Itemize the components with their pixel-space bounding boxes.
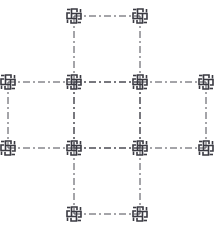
cell-edge-group: [8, 16, 206, 214]
fractal-cross-figure: [0, 0, 214, 228]
figure-canvas: Recursive cross (quincunx) tile pattern …: [0, 0, 214, 228]
pinwheel-motif-group: [1, 9, 213, 221]
